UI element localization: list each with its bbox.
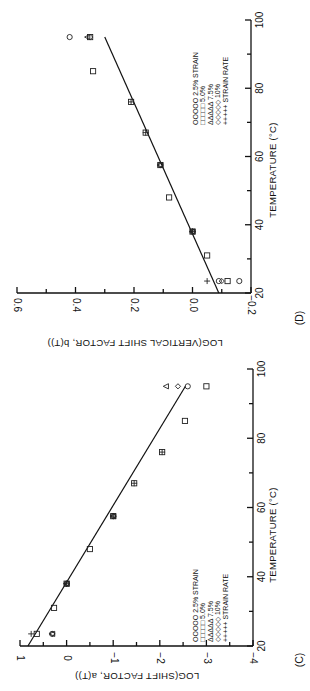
value-axis-title: LOG(VERTICAL SHIFT FACTOR, b(T)) bbox=[47, 338, 223, 349]
legend-entry: +++++ STRAIN RATE bbox=[222, 574, 229, 642]
value-tick-label: 1 bbox=[15, 655, 26, 661]
temperature-tick-label: 40 bbox=[254, 219, 265, 231]
legend-entry: +++++ STRAIN RATE bbox=[222, 57, 229, 125]
value-tick-label: 0.2 bbox=[129, 298, 140, 312]
value-tick-label: 0.6 bbox=[12, 298, 23, 312]
panel-label: (D) bbox=[293, 311, 305, 326]
legend-entry: □□□□□ 5.0% bbox=[199, 86, 206, 125]
temperature-tick-label: 80 bbox=[256, 432, 267, 444]
value-tick-label: 0.0 bbox=[188, 298, 199, 312]
legend-entry: ◇◇◇◇◇ 10% bbox=[214, 84, 221, 125]
series-diamond bbox=[50, 384, 181, 637]
temperature-axis-title: TEMPERATURE (°C) bbox=[267, 122, 278, 218]
chart-panel-c: 10−1−2−3−420406080100LOG(SHIFT FACTOR, a… bbox=[15, 360, 304, 682]
rotated-figure: 10−1−2−3−420406080100LOG(SHIFT FACTOR, a… bbox=[0, 0, 310, 691]
value-tick-label: −3 bbox=[202, 652, 213, 664]
series-diamond bbox=[88, 34, 225, 283]
legend-entry: OOOOO 2.5% STRAIN bbox=[192, 569, 199, 642]
value-tick-label: −4 bbox=[248, 652, 259, 664]
temperature-tick-label: 20 bbox=[256, 640, 267, 652]
series-triangle bbox=[50, 384, 169, 637]
temperature-tick-label: 60 bbox=[256, 502, 267, 514]
legend-entry: OOOOO 2.5% STRAIN bbox=[192, 52, 199, 125]
legend-entry: ΔΔΔΔΔ 7.5% bbox=[207, 84, 214, 125]
series-plus bbox=[128, 99, 210, 284]
chart-panel-d: 0.60.40.20.0−0.220406080100LOG(VERTICAL … bbox=[12, 11, 304, 349]
series-circle bbox=[67, 34, 242, 283]
temperature-tick-label: 100 bbox=[254, 11, 265, 28]
temperature-tick-label: 100 bbox=[256, 360, 267, 377]
value-axis-title: LOG(SHIFT FACTOR, a(T)) bbox=[75, 671, 199, 682]
legend: OOOOO 2.5% STRAIN□□□□□ 5.0%ΔΔΔΔΔ 7.5%◇◇◇… bbox=[192, 52, 229, 125]
temperature-tick-label: 40 bbox=[256, 571, 267, 583]
series-triangle bbox=[85, 34, 196, 234]
legend-entry: ΔΔΔΔΔ 7.5% bbox=[207, 601, 214, 642]
series-circle bbox=[50, 384, 191, 637]
temperature-tick-label: 60 bbox=[254, 151, 265, 163]
legend-entry: ◇◇◇◇◇ 10% bbox=[214, 601, 221, 642]
value-tick-label: −2 bbox=[155, 652, 166, 664]
value-tick-label: 0 bbox=[62, 655, 73, 661]
temperature-axis-title: TEMPERATURE (°C) bbox=[267, 487, 278, 583]
legend: OOOOO 2.5% STRAIN□□□□□ 5.0%ΔΔΔΔΔ 7.5%◇◇◇… bbox=[192, 569, 229, 642]
value-tick-label: −1 bbox=[109, 652, 120, 664]
fit-line bbox=[105, 37, 219, 293]
temperature-tick-label: 20 bbox=[254, 287, 265, 299]
panel-label: (C) bbox=[293, 653, 305, 668]
series-plus bbox=[28, 449, 165, 637]
value-tick-label: 0.4 bbox=[71, 298, 82, 312]
legend-entry: □□□□□ 5.0% bbox=[199, 603, 206, 642]
series-square bbox=[34, 384, 209, 637]
temperature-tick-label: 80 bbox=[254, 82, 265, 94]
